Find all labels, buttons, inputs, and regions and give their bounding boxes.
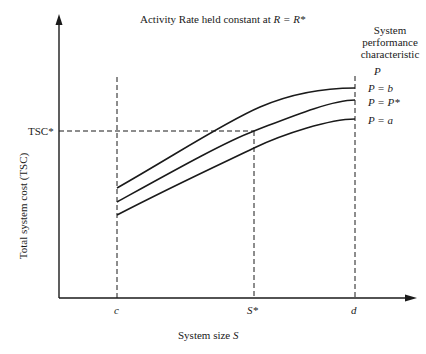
performance-header: System performance characteristic	[354, 24, 426, 60]
legend-item-p-b: P = b	[368, 82, 393, 94]
x-tick-d: d	[351, 304, 357, 316]
legend-item-p-pstar: P = P*	[368, 96, 400, 108]
legend-item-p-a: P = a	[368, 114, 393, 126]
y-axis	[56, 14, 63, 298]
x-axis	[59, 295, 417, 302]
y-axis-arrow-icon	[56, 14, 63, 25]
legend-header: P	[374, 65, 381, 77]
x-tick-c: c	[114, 304, 119, 316]
x-tick-s-star: S*	[247, 304, 258, 316]
x-axis-label: System size S	[178, 329, 239, 341]
y-marker-tsc-star: TSC*	[28, 125, 54, 137]
x-axis-arrow-icon	[405, 295, 417, 302]
chart-title: Activity Rate held constant at R = R*	[140, 13, 305, 25]
curve-p-pstar	[117, 100, 355, 202]
y-axis-label: Total system cost (TSC)	[17, 131, 29, 281]
